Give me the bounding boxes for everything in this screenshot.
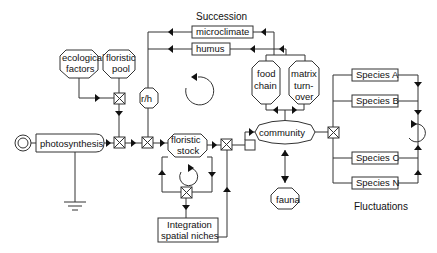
species-n-node: Species N [352,177,399,189]
floristic-stock-node: floristic stock [168,134,207,157]
community-label: community [259,127,305,138]
floristic-pool-node: floristic pool [103,50,136,78]
small-store-box [245,140,255,150]
ecosystem-diagram: Succession Fluctuations photosynthesis e… [0,0,437,253]
species-a-node: Species A [352,69,399,81]
fauna-node: fauna [271,188,300,209]
ecological-label-1: ecological [62,52,104,63]
succession-title: Succession [196,11,247,22]
source-icon [15,135,31,151]
species-n-label: Species N [356,177,399,188]
gate-5 [328,127,339,138]
matrix-turnover-node: matrix turn- over [289,61,319,104]
cycle-icon-succession [186,73,214,105]
species-c-label: Species C [356,152,399,163]
gate-0 [114,93,125,104]
rh-node: r/h [140,88,158,108]
rh-label: r/h [141,93,152,104]
fauna-label: fauna [276,194,300,205]
floristic-pool-label-2: pool [112,63,130,74]
cycle-icon-fluctuations [409,120,425,142]
gate-3 [221,139,232,150]
ecological-factors-node: ecological factors [60,50,104,78]
species-a-label: Species A [356,69,399,80]
floristic-pool-label-1: floristic [106,52,136,63]
matrix-label-2: turn- [294,80,314,91]
fluctuations-title: Fluctuations [354,201,408,212]
ground-icon [64,152,86,210]
species-b-label: Species B [356,95,399,106]
matrix-label-1: matrix [291,68,317,79]
matrix-label-3: over [295,91,313,102]
gate-2 [142,137,153,148]
gate-1 [114,137,125,148]
integration-label-1: Integration [167,219,212,230]
microclimate-label: microclimate [196,26,249,37]
food-chain-node: food chain [252,61,280,104]
species-b-node: Species B [352,95,399,107]
microclimate-node: microclimate [192,26,253,38]
integration-label-2: spatial niches [161,230,219,241]
photosynthesis-label: photosynthesis [40,138,104,149]
ecological-label-2: factors [66,63,95,74]
humus-node: humus [192,43,230,55]
species-c-node: Species C [352,152,399,164]
floristic-stock-label-2: stock [177,145,199,156]
floristic-stock-label-1: floristic [171,134,201,145]
humus-label: humus [196,43,225,54]
community-node: community [255,121,315,145]
integration-node: Integration spatial niches [158,218,219,242]
cycle-icon-stock [180,164,198,186]
gate-4 [181,187,192,198]
food-chain-label-1: food [257,68,276,79]
photosynthesis-node: photosynthesis [36,134,104,152]
food-chain-label-2: chain [254,80,277,91]
